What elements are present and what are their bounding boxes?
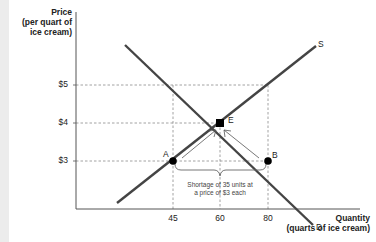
point-e-marker <box>216 119 224 127</box>
point-a-marker <box>169 157 177 165</box>
y-tick-3: $3 <box>48 156 68 166</box>
x-tick-45: 45 <box>163 214 183 224</box>
x-tick-60: 60 <box>210 214 230 224</box>
point-a-label: A <box>163 150 169 160</box>
point-e-label: E <box>228 116 234 126</box>
y-tick-5: $5 <box>48 80 68 90</box>
supply-label: S <box>318 40 324 50</box>
y-tick-4: $4 <box>48 118 68 128</box>
y-axis-subtitle: (per quart of ice cream) <box>10 18 72 37</box>
shortage-annotation: Shortage of 35 units at a price of $3 ea… <box>170 181 270 197</box>
point-b-label: B <box>272 151 278 161</box>
demand-label: D <box>316 223 322 233</box>
point-b-marker <box>264 157 272 165</box>
